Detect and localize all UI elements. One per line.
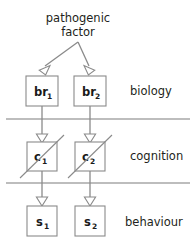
title-line-1: pathogenic <box>46 11 110 25</box>
title-line-2: factor <box>61 25 95 39</box>
node-br1[interactable]: br 1 <box>26 76 58 106</box>
diagram-svg: pathogenic factor <box>0 0 196 241</box>
edge-factor-to-br2 <box>78 42 95 75</box>
node-s1[interactable]: s 1 <box>27 206 57 236</box>
node-br2[interactable]: br 2 <box>74 76 106 106</box>
edge-br2-to-c2 <box>84 106 95 143</box>
node-s2-label: s <box>84 215 91 229</box>
layer-label-behaviour: behaviour <box>125 215 183 229</box>
node-c1-label: c <box>34 150 41 164</box>
edge-c2-to-s2 <box>84 171 95 206</box>
node-s1-label: s <box>36 215 43 229</box>
node-s2-subscript: 2 <box>92 222 97 231</box>
node-br2-subscript: 2 <box>95 92 100 101</box>
edge-br1-to-c1 <box>36 106 47 143</box>
layer-label-cognition: cognition <box>130 149 183 163</box>
layer-label-biology: biology <box>130 84 172 98</box>
node-s1-subscript: 1 <box>44 222 49 231</box>
node-br1-subscript: 1 <box>47 92 52 101</box>
node-s2[interactable]: s 2 <box>75 206 105 236</box>
diagram-canvas: pathogenic factor <box>0 0 196 241</box>
edge-c1-to-s1 <box>36 171 47 206</box>
node-c1-subscript: 1 <box>42 157 47 166</box>
edge-factor-to-br1 <box>39 42 78 75</box>
node-c2-subscript: 2 <box>90 157 95 166</box>
node-c2-label: c <box>82 150 89 164</box>
